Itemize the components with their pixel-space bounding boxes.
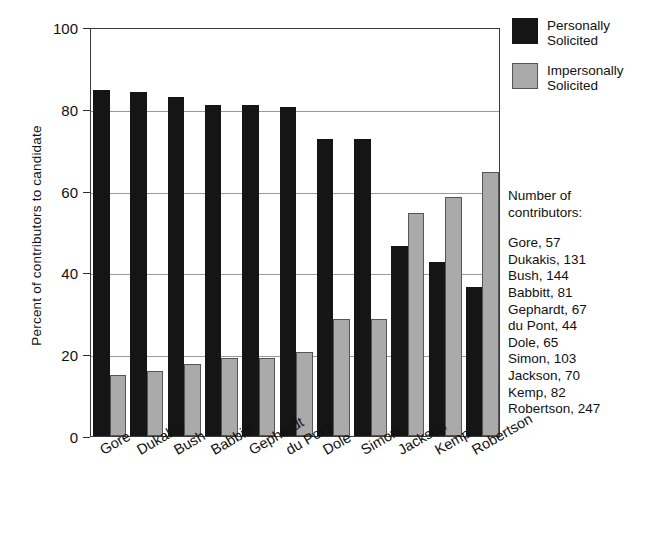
x-axis-tick-label: Simon <box>358 423 402 457</box>
contributors-list: Gore, 57Dukakis, 131Bush, 144Babbitt, 81… <box>508 235 658 418</box>
x-axis-tick-label: Gore <box>97 428 133 458</box>
contributors-list-item: Robertson, 247 <box>508 401 658 418</box>
contributors-list-item: Kemp, 82 <box>508 385 658 402</box>
legend-item-impersonally-solicited: Impersonally Solicited <box>512 63 652 93</box>
contributors-list-item: Jackson, 70 <box>508 368 658 385</box>
contributors-list-item: Dukakis, 131 <box>508 252 658 269</box>
contributors-note: Number of contributors: Gore, 57Dukakis,… <box>508 188 658 418</box>
contributors-list-item: du Pont, 44 <box>508 318 658 335</box>
contributors-list-item: Dole, 65 <box>508 335 658 352</box>
legend-label-personally-solicited: Personally Solicited <box>547 18 610 48</box>
legend-label-line2: Solicited <box>547 33 598 48</box>
chart-page: Percent of contributors to candidate 020… <box>0 0 658 543</box>
legend-swatch-personally-solicited <box>512 18 538 44</box>
legend-label-impersonally-solicited: Impersonally Solicited <box>547 63 624 93</box>
contributors-list-item: Babbitt, 81 <box>508 285 658 302</box>
legend-label-line2: Solicited <box>547 78 598 93</box>
contributors-list-item: Simon, 103 <box>508 351 658 368</box>
contributors-list-item: Bush, 144 <box>508 268 658 285</box>
contributors-note-heading-line1: Number of <box>508 188 658 205</box>
contributors-list-item: Gephardt, 67 <box>508 302 658 319</box>
x-axis-tick-label: Babbitt <box>208 421 255 457</box>
legend-swatch-impersonally-solicited <box>512 63 538 89</box>
contributors-note-heading-line2: contributors: <box>508 205 658 222</box>
legend-label-line1: Personally <box>547 18 610 33</box>
contributors-note-heading: Number of contributors: <box>508 188 658 221</box>
legend: Personally Solicited Impersonally Solici… <box>512 18 652 108</box>
legend-item-personally-solicited: Personally Solicited <box>512 18 652 48</box>
legend-label-line1: Impersonally <box>547 63 624 78</box>
contributors-list-item: Gore, 57 <box>508 235 658 252</box>
